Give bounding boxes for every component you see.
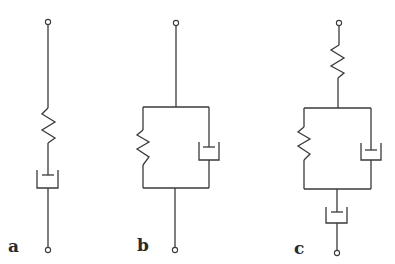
spring-icon [137, 130, 149, 165]
panel-c [298, 20, 381, 255]
panel-b [137, 20, 219, 252]
spring-icon [331, 45, 344, 78]
spring-icon [298, 127, 310, 160]
diagram-canvas [0, 0, 395, 264]
bottom-terminal-icon [334, 250, 339, 255]
bottom-terminal-icon [172, 247, 177, 252]
top-terminal-icon [336, 20, 341, 25]
top-terminal-icon [45, 19, 50, 24]
top-terminal-icon [173, 20, 178, 25]
panel-label-b: b [137, 237, 149, 254]
panel-label-c: c [294, 240, 304, 257]
spring-icon [42, 108, 55, 143]
panel-label-a: a [8, 238, 19, 255]
panel-a [37, 19, 58, 252]
bottom-terminal-icon [45, 247, 50, 252]
